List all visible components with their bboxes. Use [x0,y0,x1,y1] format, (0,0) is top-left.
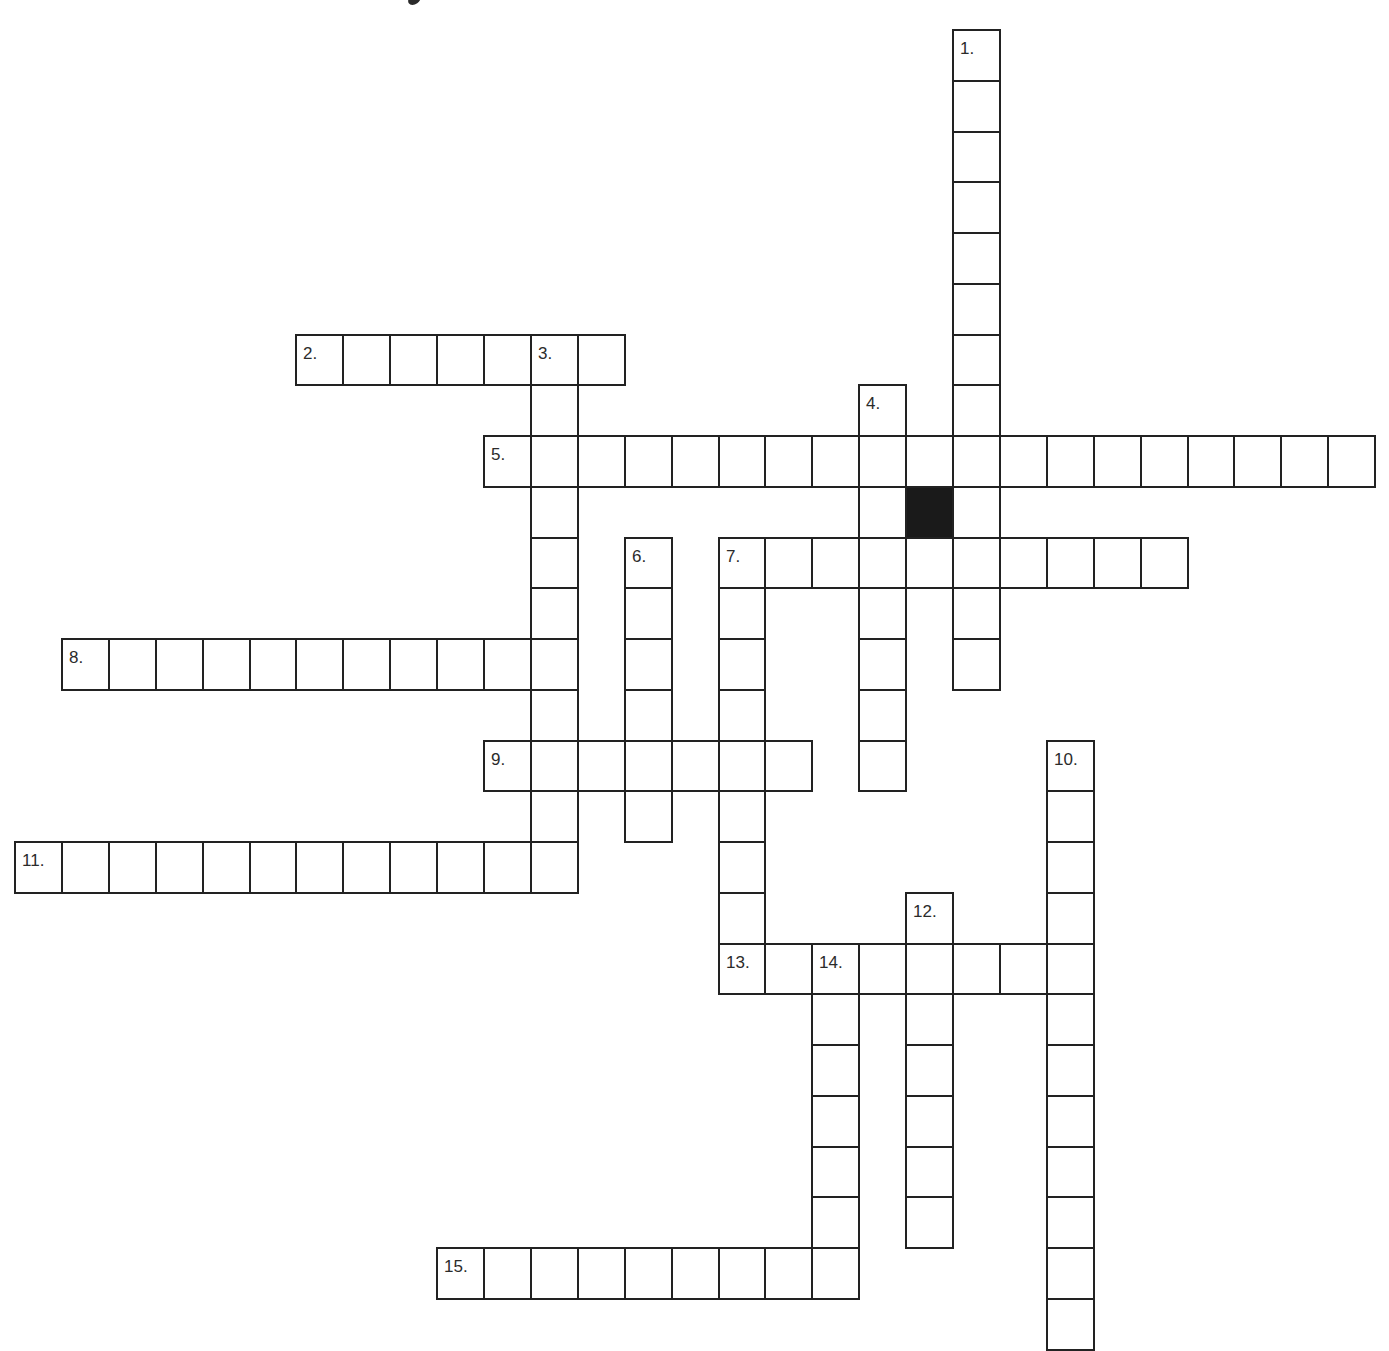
grid-cell[interactable]: 1. [952,29,1001,82]
letter-input[interactable] [907,1046,952,1095]
grid-cell[interactable] [624,740,673,792]
grid-cell[interactable] [764,435,813,488]
grid-cell[interactable] [1046,943,1095,995]
grid-cell[interactable] [389,334,438,386]
letter-input[interactable] [251,640,295,689]
grid-cell[interactable] [905,435,954,488]
grid-cell[interactable] [1046,1298,1095,1351]
letter-input[interactable] [1048,1046,1093,1095]
letter-input[interactable] [532,640,577,689]
grid-cell[interactable] [1046,841,1095,894]
grid-cell[interactable] [718,790,766,843]
grid-cell[interactable] [952,232,1001,285]
letter-input[interactable] [626,691,671,740]
grid-cell[interactable] [811,1196,860,1249]
letter-input[interactable] [1048,742,1093,790]
letter-input[interactable] [485,437,530,486]
letter-input[interactable] [954,133,999,181]
grid-cell[interactable] [342,638,391,691]
grid-cell[interactable] [952,181,1001,234]
letter-input[interactable] [579,1249,624,1298]
letter-input[interactable] [813,1148,858,1196]
grid-cell[interactable] [952,435,1001,488]
letter-input[interactable] [1235,437,1280,486]
letter-input[interactable] [673,742,718,790]
letter-input[interactable] [579,437,624,486]
letter-input[interactable] [1048,792,1093,841]
letter-input[interactable] [1142,539,1187,587]
grid-cell[interactable] [999,943,1048,995]
grid-cell[interactable] [858,740,907,792]
grid-cell[interactable] [530,537,579,589]
grid-cell[interactable] [389,841,438,894]
letter-input[interactable] [579,742,624,790]
grid-cell[interactable] [718,587,766,640]
grid-cell[interactable] [905,943,954,995]
letter-input[interactable] [297,843,342,892]
letter-input[interactable] [813,1249,858,1298]
letter-input[interactable] [1282,437,1327,486]
letter-input[interactable] [438,1249,483,1298]
grid-cell[interactable]: 3. [530,334,579,386]
letter-input[interactable] [1048,1148,1093,1196]
letter-input[interactable] [720,792,764,841]
letter-input[interactable] [391,640,436,689]
grid-cell[interactable] [718,1247,766,1300]
grid-cell[interactable]: 4. [858,384,907,437]
letter-input[interactable] [720,742,764,790]
grid-cell[interactable]: 9. [483,740,532,792]
letter-input[interactable] [1001,945,1046,993]
letter-input[interactable] [720,843,764,892]
letter-input[interactable] [860,945,905,993]
letter-input[interactable] [438,843,483,892]
letter-input[interactable] [344,336,389,384]
grid-cell[interactable] [952,638,1001,691]
letter-input[interactable] [813,1198,858,1247]
letter-input[interactable] [532,386,577,435]
letter-input[interactable] [860,488,905,537]
letter-input[interactable] [860,742,905,790]
grid-cell[interactable]: 11. [14,841,63,894]
letter-input[interactable] [720,691,764,740]
grid-cell[interactable] [718,841,766,894]
grid-cell[interactable] [858,638,907,691]
letter-input[interactable] [485,1249,530,1298]
letter-input[interactable] [1048,1300,1093,1349]
letter-input[interactable] [1048,1198,1093,1247]
grid-cell[interactable] [530,638,579,691]
grid-cell[interactable] [530,1247,579,1300]
letter-input[interactable] [720,589,764,638]
grid-cell[interactable]: 7. [718,537,766,589]
grid-cell[interactable] [342,841,391,894]
letter-input[interactable] [1048,1097,1093,1146]
grid-cell[interactable] [905,1044,954,1097]
grid-cell[interactable] [905,1146,954,1198]
grid-cell[interactable] [811,1247,860,1300]
letter-input[interactable] [860,589,905,638]
letter-input[interactable] [907,995,952,1044]
grid-cell[interactable] [202,638,251,691]
letter-input[interactable] [532,1249,577,1298]
grid-cell[interactable] [389,638,438,691]
grid-cell[interactable] [718,892,766,945]
letter-input[interactable] [1048,539,1093,587]
grid-cell[interactable] [718,638,766,691]
letter-input[interactable] [63,640,108,689]
grid-cell[interactable] [624,587,673,640]
letter-input[interactable] [438,640,483,689]
grid-cell[interactable] [811,1095,860,1148]
grid-cell[interactable] [858,486,907,539]
letter-input[interactable] [344,640,389,689]
letter-input[interactable] [485,336,530,384]
grid-cell[interactable]: 13. [718,943,766,995]
grid-cell[interactable] [624,689,673,742]
letter-input[interactable] [954,31,999,80]
letter-input[interactable] [485,843,530,892]
grid-cell[interactable] [718,689,766,742]
letter-input[interactable] [204,843,249,892]
letter-input[interactable] [1329,437,1374,486]
grid-cell[interactable] [952,384,1001,437]
grid-cell[interactable] [999,537,1048,589]
letter-input[interactable] [532,742,577,790]
grid-cell[interactable] [952,486,1001,539]
